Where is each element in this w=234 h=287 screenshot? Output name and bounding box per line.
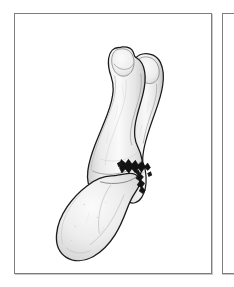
distal-phalanx-tuft <box>112 49 134 76</box>
figure-stage <box>0 0 234 287</box>
adjacent-panel <box>222 13 234 274</box>
proximal-phalanx-base <box>51 173 140 260</box>
fracture-fragment <box>147 171 152 177</box>
proximal-base-outline <box>56 173 139 260</box>
illustration-panel <box>14 13 212 274</box>
bone-illustration <box>15 14 211 273</box>
